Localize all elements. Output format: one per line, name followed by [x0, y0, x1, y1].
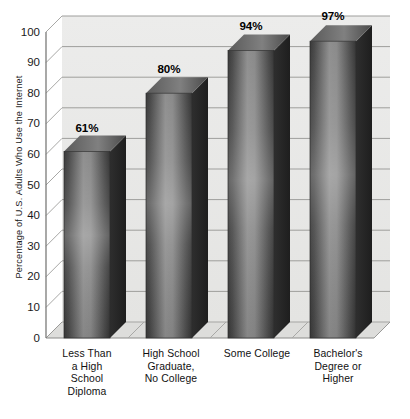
category-label-line: a High	[52, 361, 122, 374]
category-label-line: Higher	[300, 373, 376, 386]
y-tick-label-30: 30	[14, 241, 40, 252]
y-tick-label-90: 90	[14, 57, 40, 68]
y-tick-label-50: 50	[14, 180, 40, 191]
value-label-bachelors-degree: 97%	[303, 9, 363, 22]
category-label-line: Diploma	[52, 386, 122, 399]
category-label-line: Degree or	[300, 361, 376, 374]
category-label-line: Some College	[216, 348, 298, 361]
bar-less-than-high-school[interactable]	[64, 135, 126, 338]
category-label-some-college: Some College	[216, 348, 298, 361]
category-label-less-than-high-school: Less Than a High School Diploma	[52, 348, 122, 398]
bar-chart: Percentage of U.S. Adults Who Use the In…	[0, 0, 410, 419]
category-label-line: Less Than	[52, 348, 122, 361]
y-tick-label-40: 40	[14, 210, 40, 221]
y-tick-label-70: 70	[14, 118, 40, 129]
category-label-bachelors-degree: Bachelor's Degree or Higher	[300, 348, 376, 386]
category-label-high-school-graduate: High School Graduate, No College	[130, 348, 212, 386]
bar-bachelors-degree[interactable]	[310, 25, 372, 338]
category-label-line: Graduate,	[130, 361, 212, 374]
value-label-less-than-high-school: 61%	[57, 121, 117, 134]
y-tick-label-20: 20	[14, 271, 40, 282]
category-label-line: Bachelor's	[300, 348, 376, 361]
bar-some-college[interactable]	[228, 34, 290, 338]
y-tick-label-0: 0	[14, 333, 40, 344]
y-tick-label-80: 80	[14, 88, 40, 99]
category-label-line: School	[52, 373, 122, 386]
y-tick-label-10: 10	[14, 302, 40, 313]
value-label-high-school-graduate: 80%	[139, 62, 199, 75]
bar-high-school-graduate[interactable]	[146, 77, 208, 338]
y-tick-label-60: 60	[14, 149, 40, 160]
value-label-some-college: 94%	[221, 19, 281, 32]
y-tick-label-100: 100	[14, 27, 40, 38]
category-label-line: High School	[130, 348, 212, 361]
category-label-line: No College	[130, 373, 212, 386]
